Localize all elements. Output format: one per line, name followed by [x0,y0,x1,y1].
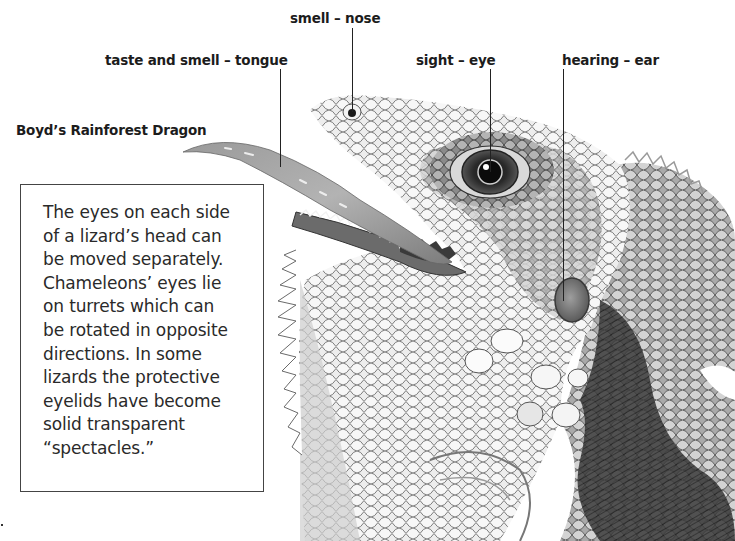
info-line: “spectacles.” [43,437,253,461]
leader-line-eye [490,69,491,172]
leader-line-ear [563,69,564,301]
label-smell-nose: smell – nose [290,10,380,26]
leader-line-nose [352,28,353,112]
info-text: The eyes on each side of a lizard’s head… [43,201,253,461]
info-line: on turrets which can [43,295,253,319]
leader-line-tongue [280,69,281,167]
info-line: eyelids have become [43,390,253,414]
info-line: lizards the protective [43,366,253,390]
ear-icon [555,278,589,322]
label-taste-smell-tongue: taste and smell – tongue [105,52,288,68]
print-speck [1,524,3,526]
label-hearing-ear: hearing – ear [562,52,659,68]
info-line: solid transparent [43,413,253,437]
info-line: Chameleons’ eyes lie [43,272,253,296]
species-title: Boyd’s Rainforest Dragon [16,122,207,138]
info-line: be rotated in opposite [43,319,253,343]
info-line: directions. In some [43,343,253,367]
info-line: be moved separately. [43,248,253,272]
info-box: The eyes on each side of a lizard’s head… [20,184,264,492]
label-sight-eye: sight – eye [416,52,495,68]
info-line: of a lizard’s head can [43,225,253,249]
info-line: The eyes on each side [43,201,253,225]
